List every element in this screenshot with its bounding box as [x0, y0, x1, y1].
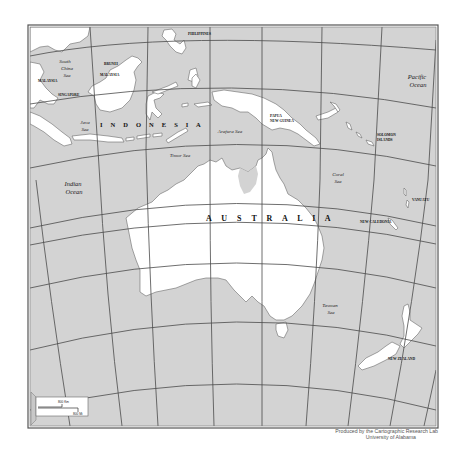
scale-mi-label: 800 Mi — [73, 412, 83, 416]
label-philippines: PHILIPPINES — [188, 32, 211, 36]
label-new-zealand: NEW ZEALAND — [388, 357, 415, 361]
label-pacific-ocean-2: Ocean — [410, 81, 427, 88]
label-new-caledonia: NEW CALEDONIA — [360, 220, 392, 224]
label-coral-sea-2: Sea — [334, 179, 342, 184]
label-islands: ISLANDS — [377, 138, 393, 142]
label-indian-ocean-1: Indian — [64, 180, 82, 187]
label-java-sea-2: Sea — [81, 127, 89, 132]
label-indian-ocean-2: Ocean — [66, 188, 83, 195]
map-canvas: A U S T R A L I A I N D O N E S I A PHIL… — [0, 0, 462, 455]
label-south-china-sea-3: Sea — [63, 73, 71, 78]
lesser-sunda-3 — [153, 133, 162, 137]
label-indonesia: I N D O N E S I A — [100, 121, 204, 128]
credit-line-2: University of Alabama — [238, 434, 438, 440]
label-south-china-sea-2: China — [61, 66, 74, 71]
credit-block: Produced by the Cartographic Research La… — [238, 428, 438, 441]
label-tasman-sea-2: Sea — [327, 310, 335, 315]
label-singapore: SINGAPORE — [58, 93, 80, 97]
lesser-sunda-1 — [126, 137, 134, 141]
label-australia: A U S T R A L I A — [206, 214, 335, 223]
label-south-china-sea-1: South — [59, 59, 71, 64]
label-vanuatu: VANUATU — [412, 198, 430, 202]
label-tasman-sea-1: Tasman — [322, 303, 338, 308]
label-new-guinea: NEW GUINEA — [270, 119, 294, 123]
label-java-sea-1: Java — [80, 120, 90, 125]
label-coral-sea-1: Coral — [332, 172, 344, 177]
label-timor-sea: Timor Sea — [170, 153, 191, 158]
label-arafura-sea: Arafura Sea — [217, 129, 243, 134]
label-solomon: SOLOMON — [377, 133, 396, 137]
label-papua: PAPUA — [270, 114, 282, 118]
label-malaysia-east: MALAYSIA — [100, 73, 120, 77]
buru — [182, 103, 188, 107]
label-malaysia-west: MALAYSIA — [38, 79, 58, 83]
label-pacific-ocean-1: Pacific — [407, 73, 427, 80]
scale-km-label: 800 Km — [58, 400, 69, 404]
label-brunei: BRUNEI — [104, 62, 119, 66]
map-container: A U S T R A L I A I N D O N E S I A PHIL… — [0, 0, 462, 455]
